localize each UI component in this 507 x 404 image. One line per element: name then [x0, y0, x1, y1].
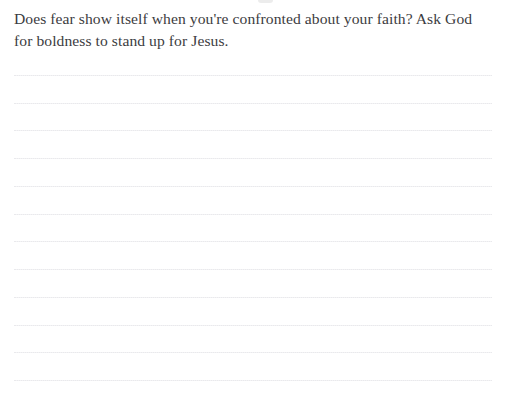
writing-line[interactable]: [14, 186, 492, 187]
writing-line[interactable]: [14, 380, 492, 381]
writing-line[interactable]: [14, 214, 492, 215]
journal-page: Does fear show itself when you're confro…: [0, 0, 507, 404]
ruled-writing-area: [0, 0, 507, 404]
writing-line[interactable]: [14, 158, 492, 159]
writing-line[interactable]: [14, 269, 492, 270]
writing-line[interactable]: [14, 130, 492, 131]
writing-line[interactable]: [14, 241, 492, 242]
writing-line[interactable]: [14, 297, 492, 298]
writing-line[interactable]: [14, 103, 492, 104]
writing-line[interactable]: [14, 352, 492, 353]
writing-line[interactable]: [14, 75, 492, 76]
writing-line[interactable]: [14, 325, 492, 326]
